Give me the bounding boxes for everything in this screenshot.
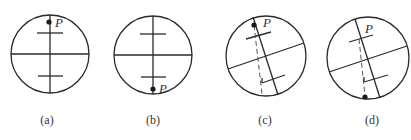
point-p-dot: [362, 94, 367, 99]
lower-stadia-tick: [364, 75, 388, 82]
caption-a: (a): [40, 113, 53, 127]
point-p-dot: [150, 86, 155, 91]
panel-a: P (a): [11, 15, 89, 127]
caption-b: (b): [146, 113, 160, 127]
point-p-label: P: [262, 15, 271, 30]
figure-canvas: P (a) P (b) P (c) P (d): [0, 0, 411, 140]
point-p-dot: [46, 19, 51, 24]
panel-d: P (d): [327, 17, 409, 127]
panel-b: P (b): [114, 16, 192, 127]
point-p-label: P: [158, 81, 167, 96]
panel-c: P (c): [226, 15, 306, 127]
point-p-label: P: [54, 15, 63, 30]
caption-d: (d): [365, 113, 379, 127]
caption-c: (c): [258, 113, 271, 127]
point-p-dot: [251, 22, 256, 27]
point-p-label: P: [364, 21, 373, 36]
